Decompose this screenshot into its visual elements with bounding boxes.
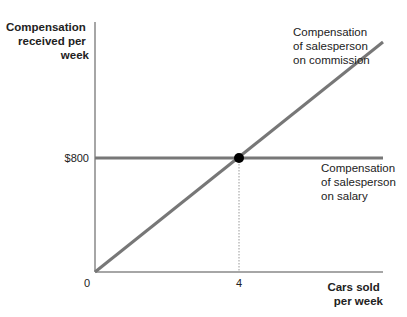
x-tick-0: 0 xyxy=(84,277,90,289)
x-axis-label: Cars sold per week xyxy=(327,281,383,307)
salary-series-label: Compensation of salesperson on salary xyxy=(321,162,399,202)
chart: Compensation received per week $800 0 4 … xyxy=(0,0,407,317)
y-axis-label: Compensation received per week xyxy=(6,21,90,61)
y-tick-800: $800 xyxy=(65,152,89,164)
x-tick-4: 4 xyxy=(236,277,242,289)
commission-series-label: Compensation of salesperson on commissio… xyxy=(293,26,371,66)
intersection-point xyxy=(234,153,244,163)
